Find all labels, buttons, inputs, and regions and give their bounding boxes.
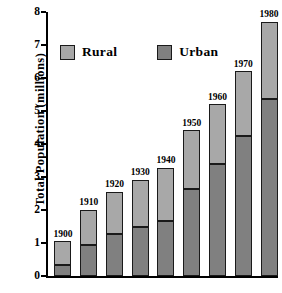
bar-value-label: 1940 [156,156,175,166]
bar-group[interactable]: 1950 [183,130,200,276]
bar-group[interactable]: 1980 [261,22,278,276]
y-tick-label: 4 [16,138,40,150]
bar-value-label: 1920 [105,180,124,190]
bar-segment-rural[interactable] [54,241,71,265]
legend-item-rural: Rural [60,44,117,60]
bar-value-label: 1930 [131,168,150,178]
bar-segment-rural[interactable] [261,22,278,100]
y-tick-label: 2 [16,204,40,216]
y-tick-label: 3 [16,171,40,183]
bar-value-label: 1900 [53,230,72,240]
bar-value-label: 1950 [182,119,201,129]
stacked-bar-chart: Total Population (millions) 012345678 19… [0,0,282,293]
bar-group[interactable]: 1900 [54,241,71,276]
y-tick-label: 5 [16,105,40,117]
bar-group[interactable]: 1920 [106,192,123,276]
y-tick-label: 6 [16,72,40,84]
bar-segment-urban[interactable] [157,221,174,276]
bar-segment-rural[interactable] [235,71,252,136]
bar-segment-urban[interactable] [183,189,200,276]
legend-label-urban: Urban [179,44,218,60]
bar-segment-rural[interactable] [106,192,123,235]
bar-segment-urban[interactable] [106,234,123,276]
legend-swatch-rural-icon [60,45,75,60]
bar-group[interactable]: 1910 [80,210,97,276]
bar-segment-urban[interactable] [54,265,71,276]
bar-value-label: 1910 [79,198,98,208]
bar-segment-urban[interactable] [80,245,97,276]
bar-segment-urban[interactable] [261,99,278,276]
bar-segment-rural[interactable] [132,180,149,227]
y-tick-label: 0 [16,270,40,282]
chart-legend: Rural Urban [60,44,218,60]
legend-label-rural: Rural [82,44,117,60]
bar-segment-rural[interactable] [157,168,174,221]
bar-segment-rural[interactable] [183,130,200,188]
bar-group[interactable]: 1970 [235,71,252,276]
bar-segment-urban[interactable] [209,164,226,276]
bar-value-label: 1970 [234,60,253,70]
bar-value-label: 1980 [260,10,279,20]
bar-group[interactable]: 1930 [132,180,149,276]
y-tick-label: 7 [16,39,40,51]
bar-group[interactable]: 1960 [209,104,226,276]
legend-swatch-urban-icon [157,45,172,60]
y-tick-label: 1 [16,237,40,249]
bar-segment-urban[interactable] [235,136,252,276]
bar-segment-rural[interactable] [80,210,97,246]
bar-segment-urban[interactable] [132,227,149,277]
bar-segment-rural[interactable] [209,104,226,163]
legend-item-urban: Urban [157,44,218,60]
x-axis-line [46,276,278,278]
y-tick-label: 8 [16,6,40,18]
bar-group[interactable]: 1940 [157,168,174,276]
bar-value-label: 1960 [208,93,227,103]
